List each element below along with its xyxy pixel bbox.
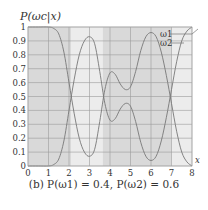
- y-tick-label: 0: [21, 161, 26, 171]
- x-tick-label: 3: [87, 168, 92, 178]
- y-tick-label: 0.1: [12, 147, 26, 157]
- x-tick-label: 7: [169, 168, 174, 178]
- x-tick-label: 6: [148, 168, 153, 178]
- y-tick-label: 0.4: [12, 105, 26, 115]
- x-tick-label: 2: [66, 168, 71, 178]
- y-axis-label: P(ωc|x): [19, 10, 61, 24]
- y-tick-label: 0.5: [12, 92, 26, 102]
- y-tick-label: 0.3: [12, 119, 26, 129]
- y-tick-label: 0.2: [12, 133, 26, 143]
- figure-caption: (b) P(ω1) = 0.4, P(ω2) = 0.6: [0, 178, 208, 190]
- y-tick-label: 0.6: [12, 78, 26, 88]
- x-tick-label: 4: [107, 168, 112, 178]
- x-tick-label: 0: [25, 168, 30, 178]
- y-tick-label: 0.8: [12, 50, 26, 60]
- x-tick-label: 8: [189, 168, 194, 178]
- x-tick-label: 1: [46, 168, 51, 178]
- y-tick-label: 1: [21, 22, 26, 32]
- x-axis-label: x: [195, 155, 200, 165]
- y-tick-label: 0.7: [12, 64, 26, 74]
- y-tick-label: 0.9: [12, 36, 26, 46]
- x-tick-label: 5: [128, 168, 133, 178]
- legend-tick-omega1: [192, 29, 198, 34]
